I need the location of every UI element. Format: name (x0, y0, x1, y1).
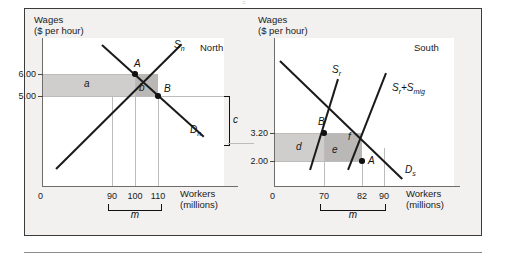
north-ytick-mark-600 (38, 74, 43, 75)
south-point-A-label: A (368, 155, 375, 166)
north-point-A (132, 71, 137, 76)
south-xtick-label-70: 70 (312, 191, 336, 201)
south-y-axis (274, 38, 275, 187)
south-ytick-label-320: 3.20 (240, 128, 268, 138)
south-xtick-label-90: 90 (372, 191, 396, 201)
south-point-B-label: B (318, 116, 325, 127)
south-origin-label: 0 (270, 191, 275, 201)
north-gridline-500 (42, 96, 224, 97)
south-ytick-label-200: 2.00 (240, 156, 268, 166)
north-xtick-label-100: 100 (123, 191, 147, 201)
north-x-axis (42, 186, 238, 187)
south-point-A (359, 158, 364, 163)
panel-south: Wages ($ per hour) B A d e (254, 14, 476, 224)
north-xtick-label-90: 90 (100, 191, 124, 201)
north-ytick-label-500: 5.00 (8, 91, 36, 101)
south-gridline-200 (274, 161, 362, 162)
south-x-axis (274, 186, 460, 187)
south-area-d-label: d (296, 141, 302, 152)
north-plot-area: A B a b Sn Dn North (42, 38, 224, 186)
south-supply-plus-migrant-curve-label: Sr+Smig (392, 82, 425, 95)
south-supply-resident-curve-label: Sr (332, 64, 341, 77)
north-xtick-label-110: 110 (146, 191, 170, 201)
north-origin-label: 0 (38, 191, 43, 201)
north-region-label: North (200, 42, 223, 53)
north-supply-curve-label: Sn (174, 39, 185, 52)
figure-container: c Wages ($ per hour) A B a (0, 0, 506, 261)
north-y-axis-title-line2: ($ per hour) (34, 25, 84, 36)
south-x-axis-label-line2: (millions) (406, 199, 444, 210)
north-demand-curve-label: Dn (190, 124, 201, 137)
south-area-e-label: e (332, 144, 338, 155)
south-ytick-mark-320 (270, 133, 275, 134)
north-migration-bracket-label: m (108, 209, 162, 220)
south-demand-curve-label: Ds (405, 164, 416, 177)
wage-gap-bracket (224, 96, 230, 146)
panel-north: Wages ($ per hour) A B a b (30, 14, 245, 224)
south-migration-bracket-label: m (320, 209, 386, 220)
south-area-f-label: f (348, 131, 351, 142)
north-area-a-label: a (84, 78, 90, 89)
south-supply-plus-migrant-curve (347, 73, 387, 171)
south-region-label: South (414, 42, 439, 53)
north-gridline-600 (42, 74, 135, 75)
north-area-b-label: b (139, 82, 145, 93)
north-point-A-label: A (134, 58, 141, 69)
figure-bottom-rule (24, 252, 482, 253)
south-ytick-mark-200 (270, 161, 275, 162)
south-dropline-70 (324, 133, 325, 186)
south-plot-area: B A d e f Sr Sr+Smig Ds South (274, 38, 454, 186)
wage-gap-bracket-label: c (233, 114, 238, 125)
south-x-axis-label-line1: Workers (406, 188, 441, 199)
south-y-axis-title-line1: Wages (258, 14, 287, 25)
wage-gap-connector-bottom (228, 143, 254, 144)
north-y-axis (42, 38, 43, 187)
north-dropline-110 (158, 96, 159, 186)
north-ytick-label-600: 6.00 (8, 69, 36, 79)
south-xtick-label-82: 82 (350, 191, 374, 201)
top-mark: c (240, 0, 248, 4)
south-y-axis-title-line2: ($ per hour) (258, 25, 308, 36)
south-dropline-82 (362, 161, 363, 186)
south-dropline-90 (384, 148, 385, 186)
north-point-B-label: B (164, 83, 171, 94)
north-x-axis-label-line1: Workers (180, 188, 215, 199)
north-x-axis-label-line2: (millions) (180, 199, 218, 210)
north-point-B (155, 93, 160, 98)
north-y-axis-title-line1: Wages (34, 14, 63, 25)
south-point-B (321, 130, 326, 135)
north-ytick-mark-500 (38, 96, 43, 97)
